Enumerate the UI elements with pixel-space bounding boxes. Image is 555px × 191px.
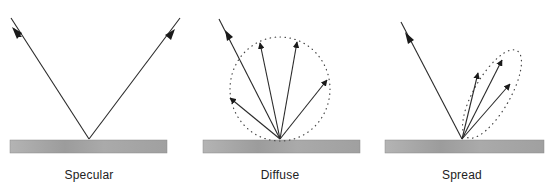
diffuse-panel: [203, 19, 360, 153]
specular-label: Specular: [29, 168, 149, 182]
spread-label: Spread: [402, 168, 522, 182]
surface: [385, 140, 544, 153]
diffuse-lobe: [230, 37, 330, 141]
incident-arrowhead-icon: [225, 30, 233, 41]
scattered-ray: [280, 42, 297, 139]
incident-arrowhead-icon: [12, 27, 22, 39]
incident-ray: [11, 18, 89, 139]
reflection-diagram: [0, 0, 555, 191]
diffuse-label: Diffuse: [220, 168, 340, 182]
surface: [10, 140, 167, 153]
specular-panel: [10, 18, 180, 153]
reflected-ray: [89, 18, 180, 139]
scattered-ray: [280, 80, 327, 139]
spread-panel: [385, 22, 544, 153]
incident-arrowhead-icon: [405, 32, 414, 44]
surface: [203, 140, 360, 153]
